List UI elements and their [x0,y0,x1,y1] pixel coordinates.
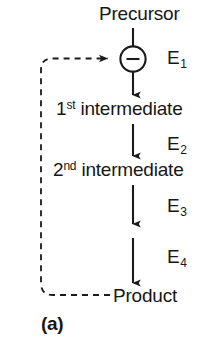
enzyme-label-e4: E4 [167,247,186,266]
intermediate1-ordinal-suffix: st [66,98,75,112]
node-label-intermediate2: 2nd intermediate [53,160,184,179]
intermediate1-rest: intermediate [75,98,182,119]
figure-panel-a: Precursor E1 1st intermediate E2 2nd int… [0,0,222,352]
enzyme-label-e2: E2 [167,134,186,153]
enzyme-symbol-e3: E [167,195,180,216]
enzyme-index-e4: 4 [180,256,187,270]
panel-label-a: (a) [41,314,63,333]
enzyme-label-e3: E3 [167,196,186,215]
intermediate2-ordinal-suffix: nd [63,159,76,173]
node-label-product: Product [113,286,177,305]
enzyme-index-e3: 3 [180,205,187,219]
enzyme-symbol-e2: E [167,133,180,154]
intermediate1-ordinal: 1 [56,98,66,119]
node-label-intermediate1: 1st intermediate [56,99,183,118]
enzyme-symbol-e1: E [167,47,180,68]
intermediate2-ordinal: 2 [53,159,63,180]
enzyme-symbol-e4: E [167,246,180,267]
enzyme-index-e1: 1 [180,57,187,71]
enzyme-label-e1: E1 [167,48,186,67]
enzyme-index-e2: 2 [180,143,187,157]
node-label-precursor: Precursor [99,4,180,23]
intermediate2-rest: intermediate [76,159,183,180]
